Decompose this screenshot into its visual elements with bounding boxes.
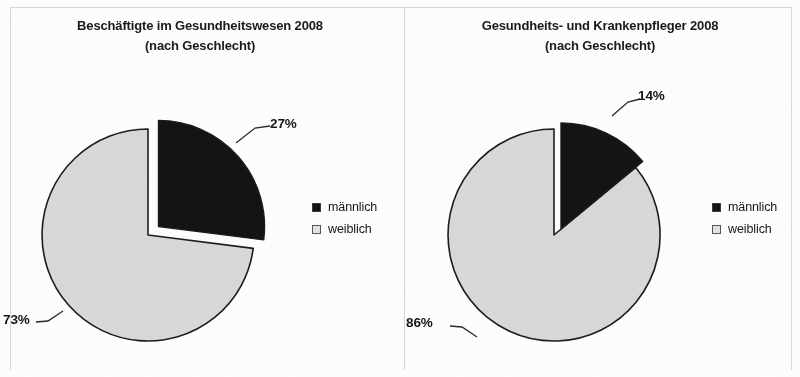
leader-line-right-weiblich: [450, 326, 477, 337]
leader-line-left-maennlich: [236, 126, 270, 143]
pie-label-left-weiblich: 73%: [3, 312, 30, 327]
pie-chart-left: 27% 73%: [0, 0, 400, 377]
pie-chart-right-svg: [400, 0, 800, 377]
legend-item-weiblich-right[interactable]: weiblich: [712, 218, 777, 240]
chart-panel-krankenpfleger: Gesundheits- und Krankenpfleger 2008 (na…: [400, 0, 800, 377]
legend-label-maennlich: männlich: [728, 200, 777, 214]
pie-label-right-weiblich: 86%: [406, 315, 433, 330]
pie-label-left-maennlich: 27%: [270, 116, 297, 131]
pie-slice-left-maennlich[interactable]: [159, 120, 265, 239]
legend-light-square-icon: [312, 225, 321, 234]
legend-dark-square-icon: [712, 203, 721, 212]
leader-line-right-maennlich: [612, 99, 640, 116]
pie-chart-left-svg: [0, 0, 400, 377]
legend-label-weiblich: weiblich: [728, 222, 772, 236]
leader-line-left-weiblich: [36, 311, 63, 322]
chart-panel-beschaeftigte: Beschäftigte im Gesundheitswesen 2008 (n…: [0, 0, 400, 377]
scanned-figure-page: Beschäftigte im Gesundheitswesen 2008 (n…: [0, 0, 800, 377]
legend-right: männlich weiblich: [712, 196, 777, 240]
legend-item-weiblich-left[interactable]: weiblich: [312, 218, 377, 240]
legend-item-maennlich-right[interactable]: männlich: [712, 196, 777, 218]
legend-left: männlich weiblich: [312, 196, 377, 240]
pie-chart-right: 14% 86%: [400, 0, 800, 377]
legend-item-maennlich-left[interactable]: männlich: [312, 196, 377, 218]
legend-light-square-icon: [712, 225, 721, 234]
legend-label-maennlich: männlich: [328, 200, 377, 214]
legend-label-weiblich: weiblich: [328, 222, 372, 236]
legend-dark-square-icon: [312, 203, 321, 212]
pie-label-right-maennlich: 14%: [638, 88, 665, 103]
